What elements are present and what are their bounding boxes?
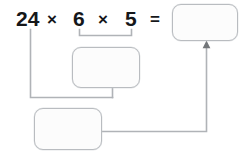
equation-term-6: 6 <box>73 8 85 29</box>
answer-box-bottom-value <box>35 109 101 149</box>
bracket-under-6-times-5 <box>80 30 132 36</box>
multiply-sign-icon-1: × <box>47 11 57 28</box>
answer-box-result-value <box>173 5 237 40</box>
worksheet-canvas: 24 × 6 × 5 = <box>0 0 248 158</box>
equation-term-5: 5 <box>125 8 137 29</box>
equation-term-24: 24 <box>16 8 39 29</box>
arrowhead-icon <box>203 41 211 49</box>
equals-sign-icon: = <box>150 11 160 28</box>
answer-box-middle[interactable] <box>72 47 140 88</box>
answer-box-middle-value <box>73 48 139 87</box>
multiply-sign-icon-2: × <box>98 11 108 28</box>
answer-box-result[interactable] <box>172 4 238 41</box>
answer-box-bottom[interactable] <box>34 108 102 150</box>
